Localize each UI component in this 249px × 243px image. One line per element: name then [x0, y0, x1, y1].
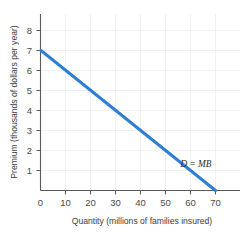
y-tick-label-3: 3 — [27, 125, 32, 136]
y-tick-label-6: 6 — [27, 65, 32, 76]
y-tick-label-5: 5 — [27, 85, 32, 96]
x-tick-label-0: 0 — [38, 197, 43, 208]
y-tick-label-2: 2 — [27, 145, 32, 156]
demand-curve-chart: 8 7 6 5 4 3 2 1 0 10 20 30 40 50 60 70 D… — [0, 0, 249, 243]
y-axis-title: Premium (thousands of dollars per year) — [9, 25, 19, 178]
series-label-demand: D = MB — [179, 159, 211, 169]
y-tick-label-8: 8 — [27, 25, 32, 36]
x-axis-title: Quantity (millions of families insured) — [72, 216, 213, 226]
x-tick-label-60: 60 — [185, 197, 196, 208]
x-tick-label-20: 20 — [85, 197, 96, 208]
y-tick-label-4: 4 — [27, 105, 32, 116]
x-tick-label-40: 40 — [135, 197, 146, 208]
chart-figure: 8 7 6 5 4 3 2 1 0 10 20 30 40 50 60 70 D… — [0, 0, 249, 243]
y-tick-label-7: 7 — [27, 45, 32, 56]
x-tick-label-50: 50 — [160, 197, 171, 208]
x-tick-label-70: 70 — [210, 197, 221, 208]
x-tick-label-10: 10 — [60, 197, 71, 208]
x-tick-label-30: 30 — [110, 197, 121, 208]
y-tick-label-1: 1 — [27, 165, 32, 176]
